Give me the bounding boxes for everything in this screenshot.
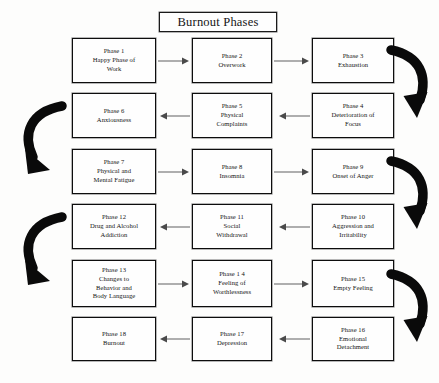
arrow-phase-8-to-9 bbox=[274, 167, 310, 177]
curve-arrow-phase-6-to-7 bbox=[0, 96, 72, 188]
arrow-phase-16-to-17 bbox=[274, 334, 310, 344]
phase-box-13: Phase 13 Changes to Behavior and Body La… bbox=[72, 260, 156, 307]
phase-box-14: Phase 1 4 Feeling of Worthlessness bbox=[192, 260, 272, 307]
phase-box-12: Phase 12 Drug and Alcohol Addiction bbox=[72, 204, 156, 249]
phase-label-14: Phase 1 4 Feeling of Worthlessness bbox=[213, 270, 251, 296]
arrow-phase-7-to-8 bbox=[158, 167, 190, 177]
phase-box-6: Phase 6 Anxiousness bbox=[72, 93, 156, 138]
phase-box-11: Phase 11 Social Withdrawal bbox=[192, 204, 272, 249]
phase-label-5: Phase 5 Physical Complaints bbox=[217, 102, 248, 128]
phase-label-2: Phase 2 Overwork bbox=[218, 52, 245, 69]
phase-box-3: Phase 3 Exhaustion bbox=[312, 38, 394, 83]
phase-label-10: Phase 10 Aggression and Irritability bbox=[332, 213, 374, 239]
phase-box-9: Phase 9 Onset of Anger bbox=[312, 149, 394, 194]
diagram-title: Burnout Phases bbox=[178, 16, 259, 29]
phase-label-8: Phase 8 Insomnia bbox=[220, 163, 245, 180]
arrow-phase-5-to-6 bbox=[158, 111, 190, 121]
phase-box-10: Phase 10 Aggression and Irritability bbox=[312, 204, 394, 249]
phase-box-7: Phase 7 Physical and Mental Fatigue bbox=[72, 149, 156, 194]
phase-label-16: Phase 16 Emotional Detachment bbox=[337, 326, 369, 352]
phase-label-15: Phase 15 Empty Feeling bbox=[333, 275, 373, 292]
phase-box-18: Phase 18 Burnout bbox=[72, 317, 156, 361]
arrow-phase-14-to-15 bbox=[274, 279, 310, 289]
phase-box-16: Phase 16 Emotional Detachment bbox=[312, 317, 394, 361]
arrow-phase-4-to-5 bbox=[274, 111, 310, 121]
phase-label-6: Phase 6 Anxiousness bbox=[97, 107, 131, 124]
phase-label-17: Phase 17 Depression bbox=[217, 330, 247, 347]
phase-box-4: Phase 4 Deterioration of Focus bbox=[312, 93, 394, 138]
phase-label-9: Phase 9 Onset of Anger bbox=[333, 163, 374, 180]
phase-box-2: Phase 2 Overwork bbox=[192, 38, 272, 83]
phase-box-15: Phase 15 Empty Feeling bbox=[312, 260, 394, 307]
arrow-phase-13-to-14 bbox=[158, 279, 190, 289]
phase-box-8: Phase 8 Insomnia bbox=[192, 149, 272, 194]
phase-label-7: Phase 7 Physical and Mental Fatigue bbox=[94, 158, 135, 184]
arrow-phase-2-to-3 bbox=[274, 56, 310, 66]
curve-arrow-phase-12-to-13 bbox=[0, 207, 72, 299]
arrow-phase-17-to-18 bbox=[158, 334, 190, 344]
phase-box-5: Phase 5 Physical Complaints bbox=[192, 93, 272, 138]
arrow-phase-1-to-2 bbox=[158, 56, 190, 66]
phase-label-18: Phase 18 Burnout bbox=[102, 330, 126, 347]
phase-box-1: Phase 1 Happy Phase of Work bbox=[72, 38, 156, 83]
phase-label-3: Phase 3 Exhaustion bbox=[338, 52, 368, 69]
arrow-phase-10-to-11 bbox=[274, 222, 310, 232]
phase-box-17: Phase 17 Depression bbox=[192, 317, 272, 361]
phase-label-12: Phase 12 Drug and Alcohol Addiction bbox=[90, 213, 138, 239]
phase-label-11: Phase 11 Social Withdrawal bbox=[216, 213, 247, 239]
diagram-title-box: Burnout Phases bbox=[159, 12, 277, 32]
phase-label-1: Phase 1 Happy Phase of Work bbox=[93, 47, 135, 73]
burnout-phases-diagram: Burnout Phases Phase 1 Happy Phase of Wo… bbox=[0, 0, 439, 383]
phase-label-13: Phase 13 Changes to Behavior and Body La… bbox=[93, 266, 136, 301]
arrow-phase-11-to-12 bbox=[158, 222, 190, 232]
phase-label-4: Phase 4 Deterioration of Focus bbox=[331, 102, 374, 128]
